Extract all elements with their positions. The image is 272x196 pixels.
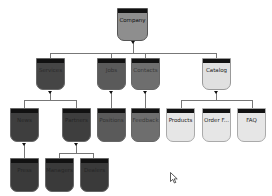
node-header [63, 109, 90, 113]
connector [50, 53, 217, 54]
node-header [238, 109, 265, 113]
connector [59, 153, 94, 154]
connector [133, 43, 134, 53]
node-label: Products [167, 117, 194, 123]
node-products[interactable]: Products [166, 108, 195, 142]
node-label: Company [118, 17, 147, 23]
expand-arrow-icon[interactable] [22, 143, 26, 146]
node-press[interactable]: Press [10, 158, 39, 192]
expand-arrow-icon[interactable] [109, 91, 113, 94]
node-label: Jobs [98, 67, 125, 73]
node-label: Feedback [132, 117, 159, 123]
expand-arrow-icon[interactable] [74, 143, 78, 146]
node-header [132, 109, 159, 113]
node-header [81, 159, 108, 163]
node-label: Press [11, 167, 38, 173]
node-label: Services [37, 67, 64, 73]
node-header [203, 109, 230, 113]
node-catalog[interactable]: Catalog [202, 58, 231, 90]
connector [24, 145, 25, 159]
node-label: Partners [63, 117, 90, 123]
node-label: Contacts [132, 67, 159, 73]
node-managers[interactable]: Managers [45, 158, 74, 192]
node-faq[interactable]: FAQ [237, 108, 266, 142]
node-header [11, 159, 38, 163]
node-news[interactable]: News [10, 108, 39, 142]
connector [76, 100, 77, 108]
expand-arrow-icon[interactable] [143, 91, 147, 94]
expand-arrow-icon[interactable] [131, 41, 135, 44]
mouse-cursor-icon [170, 172, 178, 184]
connector [181, 100, 182, 108]
node-contacts[interactable]: Contacts [131, 58, 160, 90]
connector [76, 145, 77, 153]
node-order-form[interactable]: Order F... [202, 108, 231, 142]
node-header [203, 59, 230, 63]
expand-arrow-icon[interactable] [214, 91, 218, 94]
node-header [98, 59, 125, 63]
node-header [167, 109, 194, 113]
node-header [11, 109, 38, 113]
node-label: Catalog [203, 67, 230, 73]
node-positions[interactable]: Positions [97, 108, 126, 142]
node-label: Order F... [203, 117, 230, 123]
connector [145, 92, 146, 108]
connector [24, 100, 77, 101]
node-label: FAQ [238, 117, 265, 123]
expand-arrow-icon[interactable] [48, 91, 52, 94]
node-feedback[interactable]: Feedback [131, 108, 160, 142]
node-header [37, 59, 64, 63]
connector [111, 92, 112, 108]
node-header [132, 59, 159, 63]
node-label: Dealers [81, 167, 108, 173]
node-header [98, 109, 125, 113]
connector [24, 100, 25, 108]
node-header [118, 9, 147, 13]
node-partners[interactable]: Partners [62, 108, 91, 142]
node-jobs[interactable]: Jobs [97, 58, 126, 90]
node-dealers[interactable]: Dealers [80, 158, 109, 192]
connector [181, 100, 253, 101]
connector [252, 100, 253, 108]
node-header [46, 159, 73, 163]
node-label: Positions [98, 117, 125, 123]
node-services[interactable]: Services [36, 58, 65, 90]
node-label: Managers [46, 167, 73, 173]
node-label: News [11, 117, 38, 123]
node-company[interactable]: Company [117, 8, 148, 41]
